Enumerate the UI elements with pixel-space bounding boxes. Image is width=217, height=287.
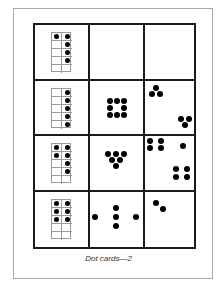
dot-icon xyxy=(54,209,59,214)
ten-frame-cell xyxy=(35,25,90,81)
dot-card-inverted-triangle xyxy=(90,136,145,192)
ten-frame-cell xyxy=(35,136,90,192)
ten-frame-box xyxy=(52,160,62,168)
dot-icon xyxy=(65,145,70,150)
dot-icon xyxy=(184,166,190,172)
dot-icon xyxy=(114,112,120,118)
dot-icon xyxy=(65,50,70,55)
ten-frame-box xyxy=(52,65,62,73)
ten-frame-box xyxy=(52,168,62,176)
ten-frame-cell xyxy=(35,192,90,248)
dot-icon xyxy=(180,143,186,149)
dot-icon xyxy=(65,217,70,222)
dot-icon xyxy=(65,42,70,47)
dot-icon xyxy=(114,98,120,104)
dot-card-blank xyxy=(145,25,194,81)
dot-icon xyxy=(173,166,179,172)
dot-card-blank xyxy=(90,25,145,81)
dot-icon xyxy=(158,145,164,151)
ten-frame-box xyxy=(52,216,62,224)
ten-frame-box xyxy=(52,224,62,232)
dot-icon xyxy=(121,112,127,118)
ten-frame-box xyxy=(62,97,72,105)
dot-icon xyxy=(65,34,70,39)
dot-icon xyxy=(65,169,70,174)
ten-frame-box xyxy=(52,105,62,113)
ten-frame-box xyxy=(62,41,72,49)
dot-icon xyxy=(65,58,70,63)
dot-icon xyxy=(153,200,159,206)
dot-card-grid xyxy=(33,23,196,249)
dot-icon xyxy=(65,90,70,95)
ten-frame-box xyxy=(62,33,72,41)
ten-frame-box xyxy=(52,144,62,152)
dot-icon xyxy=(107,105,113,111)
ten-frame-box xyxy=(62,232,72,240)
dot-icon xyxy=(160,206,166,212)
dot-icon xyxy=(65,114,70,119)
ten-frame-box xyxy=(52,200,62,208)
ten-frame xyxy=(51,32,71,72)
dot-icon xyxy=(65,106,70,111)
ten-frame-box xyxy=(62,216,72,224)
dot-card-two-triangles xyxy=(145,81,194,137)
dot-icon xyxy=(107,112,113,118)
figure-caption: Dot cards—2 xyxy=(0,254,217,263)
dot-icon xyxy=(121,105,127,111)
ten-frame-box xyxy=(62,89,72,97)
ten-frame xyxy=(51,199,71,239)
dot-icon xyxy=(133,214,139,220)
dot-icon xyxy=(92,214,98,220)
dot-icon xyxy=(147,138,153,144)
ten-frame-box xyxy=(62,105,72,113)
dot-icon xyxy=(109,157,115,163)
ten-frame-box xyxy=(62,200,72,208)
dot-icon xyxy=(153,85,159,91)
dot-icon xyxy=(54,201,59,206)
ten-frame xyxy=(51,143,71,183)
dot-icon xyxy=(113,151,119,157)
ten-frame-box xyxy=(62,160,72,168)
ten-frame-box xyxy=(52,97,62,105)
dot-icon xyxy=(121,151,127,157)
dot-icon xyxy=(157,91,163,97)
dot-icon xyxy=(186,116,192,122)
dot-icon xyxy=(65,161,70,166)
ten-frame-box xyxy=(62,121,72,129)
ten-frame-box xyxy=(52,176,62,184)
ten-frame-box xyxy=(62,113,72,121)
dot-icon xyxy=(107,98,113,104)
dot-icon xyxy=(113,214,119,220)
ten-frame-box xyxy=(62,208,72,216)
dot-card-cross-line xyxy=(90,192,145,248)
ten-frame-box xyxy=(62,144,72,152)
dot-card-diagonal-pair xyxy=(145,192,194,248)
dot-icon xyxy=(178,116,184,122)
dot-icon xyxy=(65,122,70,127)
ten-frame-box xyxy=(52,33,62,41)
ten-frame-box xyxy=(52,113,62,121)
dot-icon xyxy=(54,217,59,222)
ten-frame-box xyxy=(62,65,72,73)
ten-frame-box xyxy=(52,152,62,160)
dot-icon xyxy=(149,91,155,97)
dot-icon xyxy=(65,201,70,206)
dot-icon xyxy=(65,153,70,158)
ten-frame-box xyxy=(52,89,62,97)
dot-icon xyxy=(54,145,59,150)
ten-frame-box xyxy=(62,57,72,65)
dot-icon xyxy=(105,151,111,157)
ten-frame-cell xyxy=(35,81,90,137)
dot-icon xyxy=(113,223,119,229)
dot-icon xyxy=(182,122,188,128)
dot-icon xyxy=(54,34,59,39)
ten-frame xyxy=(51,88,71,128)
ten-frame-box xyxy=(62,176,72,184)
dot-icon xyxy=(65,98,70,103)
ten-frame-box xyxy=(62,152,72,160)
ten-frame-box xyxy=(52,208,62,216)
dot-icon xyxy=(65,209,70,214)
dot-icon xyxy=(117,157,123,163)
dot-icon xyxy=(184,174,190,180)
ten-frame-box xyxy=(52,121,62,129)
